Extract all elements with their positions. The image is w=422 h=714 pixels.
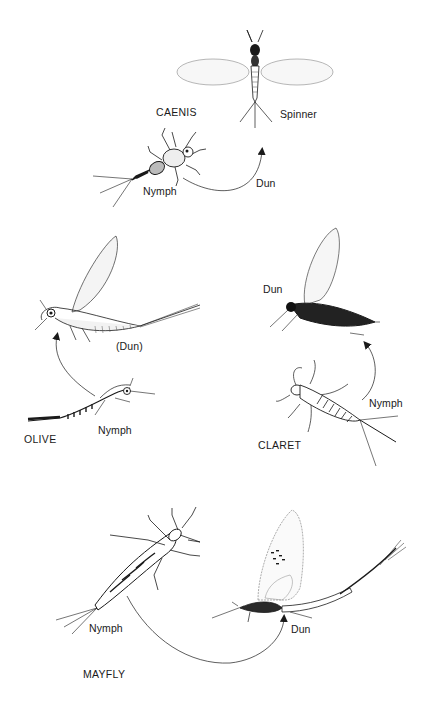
caenis-spinner-label: Spinner bbox=[280, 108, 317, 120]
claret-nymph-label: Nymph bbox=[369, 397, 403, 409]
olive-nymph-label: Nymph bbox=[98, 424, 132, 436]
claret-arrow-icon bbox=[362, 344, 375, 400]
mayfly-nymph-icon bbox=[56, 507, 200, 634]
claret-title: CLARET bbox=[258, 439, 301, 451]
mayfly-title: MAYFLY bbox=[83, 668, 125, 680]
mayfly-dun-icon bbox=[212, 510, 406, 622]
mayfly-nymph-label: Nymph bbox=[89, 622, 123, 634]
olive-nymph-icon bbox=[28, 378, 155, 421]
olive-arrow-icon bbox=[56, 336, 95, 396]
caenis-dun-label: Dun bbox=[256, 177, 276, 189]
olive-dun-label: (Dun) bbox=[116, 340, 143, 352]
olive-title: OLIVE bbox=[24, 433, 56, 445]
caenis-arrow-icon bbox=[183, 151, 262, 191]
caenis-title: CAENIS bbox=[156, 106, 197, 118]
illustration-canvas bbox=[0, 0, 422, 714]
mayfly-dun-label: Dun bbox=[291, 623, 311, 635]
claret-dun-label: Dun bbox=[263, 283, 283, 295]
mayfly-lifecycle-figure: CAENIS Spinner Nymph Dun (Dun) Nymph OLI… bbox=[0, 0, 422, 714]
olive-dun-icon bbox=[35, 236, 200, 342]
claret-dun-icon bbox=[270, 228, 380, 335]
caenis-nymph-label: Nymph bbox=[143, 185, 177, 197]
